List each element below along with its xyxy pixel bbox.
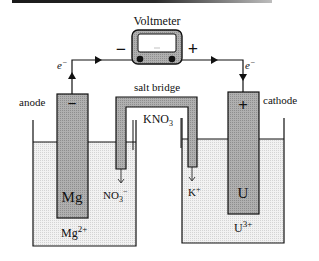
electron-flow-right-arrow-icon-2: [211, 56, 218, 64]
anode-label: anode: [19, 96, 45, 108]
voltmeter-negative-terminal: [137, 56, 144, 63]
salt-bridge-electrolyte-label: KNO3: [143, 112, 173, 128]
electron-flow-up-arrow-icon: [68, 72, 76, 79]
galvanic-cell-diagram: Voltmeter − + e− e− anode − Mg Mg2+ cath…: [0, 0, 319, 261]
electron-flow-right-arrow-icon: [95, 56, 102, 64]
electron-flow-down-arrow-icon: [239, 74, 247, 81]
anode-metal-label: Mg: [62, 189, 83, 205]
voltmeter-positive-terminal: [169, 56, 176, 63]
voltmeter-negative-sign: −: [116, 39, 126, 59]
salt-bridge-label: salt bridge: [134, 81, 180, 93]
voltmeter-positive-sign: +: [188, 39, 198, 59]
electron-label-left: e−: [57, 58, 67, 71]
cathode-label: cathode: [263, 94, 297, 106]
electron-label-right: e−: [245, 58, 255, 71]
voltmeter-display: [138, 34, 176, 52]
voltmeter-label: Voltmeter: [133, 14, 180, 28]
voltmeter: [132, 30, 182, 64]
anode-sign: −: [67, 95, 76, 112]
cathode-sign: +: [238, 96, 248, 115]
cathode-metal-label: U: [238, 185, 249, 201]
